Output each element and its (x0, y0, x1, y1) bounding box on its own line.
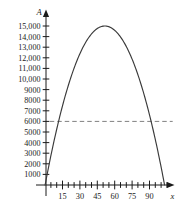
y-axis-label: A (36, 7, 43, 17)
y-tick-label-15000: 15,000 (18, 22, 40, 31)
y-tick-label-5000: 5000 (24, 128, 40, 137)
x-tick-label-15: 15 (58, 192, 66, 201)
y-axis-arrow-head (43, 10, 49, 18)
x-tick-label-75: 75 (128, 192, 136, 201)
y-tick-label-3000: 3000 (24, 149, 40, 158)
y-tick-label-10000: 10,000 (18, 75, 40, 84)
x-tick-label-30: 30 (76, 192, 84, 201)
y-tick-label-14000: 14,000 (18, 33, 40, 42)
y-tick-label-8000: 8000 (24, 96, 40, 105)
x-tick-label-60: 60 (111, 192, 119, 201)
y-axis-tick-labels: 10002000300040005000600070008000900010,0… (18, 22, 40, 179)
y-tick-label-11000: 11,000 (19, 64, 41, 73)
chart-container: 10002000300040005000600070008000900010,0… (0, 0, 182, 224)
x-tick-label-45: 45 (93, 192, 101, 201)
x-axis-label: x (170, 191, 175, 201)
y-tick-label-9000: 9000 (24, 86, 40, 95)
y-tick-label-13000: 13,000 (18, 43, 40, 52)
x-axis-tick-labels: 153045607590 (58, 192, 153, 201)
y-tick-label-1000: 1000 (24, 170, 40, 179)
x-tick-label-90: 90 (145, 192, 153, 201)
y-tick-label-7000: 7000 (24, 107, 40, 116)
y-tick-label-4000: 4000 (24, 139, 40, 148)
x-axis-arrow-head (167, 182, 175, 188)
y-tick-label-2000: 2000 (24, 160, 40, 169)
area-function-curve (45, 26, 164, 185)
y-tick-label-12000: 12,000 (18, 54, 40, 63)
y-tick-label-6000: 6000 (24, 117, 40, 126)
parabola-area-chart: 10002000300040005000600070008000900010,0… (0, 0, 182, 224)
